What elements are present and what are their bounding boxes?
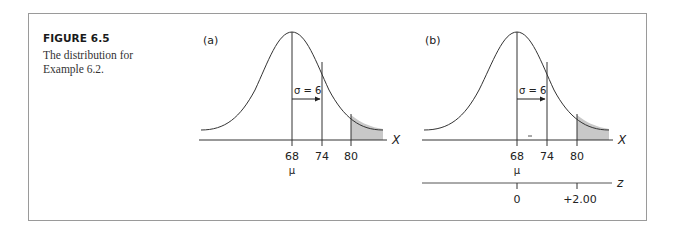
panel-b-label: (b) (425, 34, 441, 47)
mu-label: μ (514, 165, 521, 176)
z-tick-label-0: 0 (514, 193, 521, 206)
mu-label: μ (289, 165, 296, 176)
tick-74: 74 (540, 150, 554, 163)
tick-68: 68 (510, 150, 524, 163)
panel-a: (a) X σ = 6 68 74 80 μ (199, 32, 401, 176)
panel-b: (b) X σ = 6 68 74 80 μ z 0 +2.00 (422, 32, 627, 206)
x-axis-label: X (617, 133, 627, 147)
z-axis-label: z (616, 176, 624, 190)
z-tick-label-2: +2.00 (563, 193, 597, 206)
tick-80: 80 (570, 150, 584, 163)
tick-68: 68 (285, 150, 299, 163)
tick-80: 80 (344, 150, 358, 163)
tick-74: 74 (315, 150, 329, 163)
sigma-label: σ = 6 (294, 85, 321, 96)
sigma-label: σ = 6 (519, 85, 546, 96)
figure-graphics: (a) X σ = 6 68 74 80 μ (b) X σ = 6 (0, 0, 674, 231)
x-axis-label: X (391, 133, 401, 147)
panel-a-label: (a) (203, 34, 218, 47)
